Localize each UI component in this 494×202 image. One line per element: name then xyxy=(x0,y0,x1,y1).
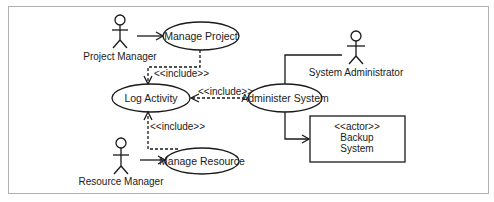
actor-label-system-administrator: System Administrator xyxy=(309,67,404,78)
include-label-manage-resource: <<include>> xyxy=(150,121,205,132)
backup-name-line2: System xyxy=(340,143,373,154)
use-case-administer-system[interactable]: Administer System xyxy=(241,84,329,112)
association-arrow-pm xyxy=(137,32,163,40)
include-label-manage-project: <<include>> xyxy=(154,68,209,79)
association-line-backup xyxy=(285,112,309,139)
use-case-label-log-activity: Log Activity xyxy=(124,92,178,104)
actor-project-manager[interactable] xyxy=(112,15,128,48)
use-case-label-manage-resource: Manage Resource xyxy=(159,155,245,167)
use-case-label-manage-project: Manage Project xyxy=(164,30,238,42)
actor-label-project-manager: Project Manager xyxy=(83,51,157,62)
backup-name-line1: Backup xyxy=(340,132,374,143)
use-case-log-activity[interactable]: Log Activity xyxy=(112,84,190,112)
use-case-label-administer-system: Administer System xyxy=(241,92,329,104)
use-case-manage-project[interactable]: Manage Project xyxy=(163,22,239,50)
actor-resource-manager[interactable] xyxy=(113,138,129,174)
use-case-diagram: Project Manager Manage Project <<include… xyxy=(0,0,494,202)
actor-label-resource-manager: Resource Manager xyxy=(78,176,164,187)
actor-system-administrator[interactable] xyxy=(347,31,365,64)
external-system-backup[interactable]: <<actor>> Backup System xyxy=(310,116,405,162)
use-case-manage-resource[interactable]: Manage Resource xyxy=(159,148,245,174)
backup-stereotype: <<actor>> xyxy=(334,121,380,132)
